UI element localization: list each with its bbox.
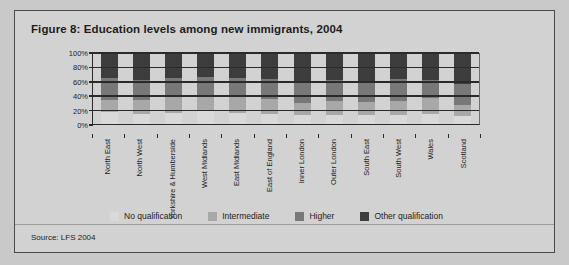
x-axis-tick-mark — [480, 134, 481, 138]
stacked-bar — [229, 53, 246, 124]
stacked-bar — [326, 53, 343, 124]
bar-segment — [326, 101, 343, 115]
bar-segment — [197, 77, 214, 95]
x-axis-label-text: East of England — [266, 139, 275, 192]
bars-layer — [93, 53, 479, 124]
bar-segment — [326, 115, 343, 124]
x-axis-label: East Midlands — [229, 134, 246, 186]
bar-segment — [197, 95, 214, 111]
x-axis-label: Wales — [423, 134, 440, 160]
x-axis-tick-mark — [383, 134, 384, 138]
bar-segment — [358, 102, 375, 115]
legend-item[interactable]: No qualification — [110, 211, 182, 221]
x-axis-label-text: South West — [395, 139, 404, 178]
x-axis-tick-mark — [221, 134, 222, 138]
legend-item[interactable]: Intermediate — [208, 211, 269, 221]
stacked-bar — [101, 53, 118, 124]
y-axis-tick-label: 80% — [73, 63, 88, 72]
x-axis-label: Scotland — [455, 134, 472, 168]
stacked-bar — [358, 53, 375, 124]
x-axis-tick-mark — [318, 134, 319, 138]
bar-segment — [326, 80, 343, 101]
bar-segment — [101, 53, 118, 78]
y-axis: 0%20%40%60%80%100% — [60, 53, 88, 125]
legend-label: Other qualification — [374, 211, 443, 221]
bar-segment — [358, 115, 375, 124]
legend-item[interactable]: Other qualification — [360, 211, 443, 221]
bar-segment — [454, 53, 471, 84]
legend-label: Higher — [309, 211, 334, 221]
figure-title: Figure 8: Education levels among new imm… — [31, 23, 342, 35]
bar-segment — [422, 98, 439, 114]
x-axis-tick-mark — [448, 134, 449, 138]
source-divider — [15, 224, 554, 225]
x-axis-label-text: North East — [104, 139, 113, 174]
bar-segment — [133, 100, 150, 114]
bar-segment — [261, 99, 278, 114]
x-axis-label: Yorkshire & Humberside — [164, 134, 181, 220]
stacked-bar — [454, 53, 471, 124]
x-axis-label: South East — [358, 134, 375, 176]
bar-segment — [454, 84, 471, 105]
bar-segment — [294, 115, 311, 124]
bar-segment — [197, 53, 214, 77]
y-axis-tick-label: 0% — [77, 121, 88, 130]
x-axis-label-text: West Midlands — [201, 139, 210, 188]
bar-segment — [454, 116, 471, 124]
chart-legend: No qualificationIntermediateHigherOther … — [110, 211, 443, 221]
bar-segment — [294, 81, 311, 102]
gridline — [93, 67, 479, 69]
x-axis-tick-mark — [124, 134, 125, 138]
legend-swatch-icon — [295, 212, 304, 221]
bar-segment — [261, 114, 278, 124]
y-axis-tick-label: 60% — [73, 77, 88, 86]
source-note: Source: LFS 2004 — [31, 233, 95, 242]
gridline — [93, 52, 479, 54]
x-axis-tick-mark — [286, 134, 287, 138]
legend-swatch-icon — [110, 212, 119, 221]
gridline — [93, 81, 479, 83]
bar-segment — [165, 113, 182, 124]
x-axis-tick-mark — [254, 134, 255, 138]
x-axis-label-text: East Midlands — [233, 139, 242, 186]
x-axis-label-text: Inner London — [298, 139, 307, 183]
x-axis-label: West Midlands — [197, 134, 214, 188]
gridline — [93, 95, 479, 97]
x-axis-label-text: Yorkshire & Humberside — [169, 139, 178, 220]
x-axis-label-text: Outer London — [330, 139, 339, 185]
x-axis-tick-mark — [351, 134, 352, 138]
x-axis-label: South West — [391, 134, 408, 178]
x-axis-tick-mark — [415, 134, 416, 138]
legend-swatch-icon — [360, 212, 369, 221]
x-axis-label-text: North West — [136, 139, 145, 176]
x-axis-label-text: Scotland — [460, 139, 469, 168]
figure-container: Figure 8: Education levels among new imm… — [14, 10, 555, 253]
stacked-bar — [133, 53, 150, 124]
legend-swatch-icon — [208, 212, 217, 221]
y-axis-tick-mark — [89, 124, 93, 126]
y-axis-tick-label: 100% — [69, 49, 88, 58]
legend-item[interactable]: Higher — [295, 211, 334, 221]
x-axis-label: North West — [132, 134, 149, 176]
bar-segment — [229, 113, 246, 124]
legend-label: Intermediate — [222, 211, 269, 221]
y-axis-tick-label: 20% — [73, 106, 88, 115]
stacked-bar — [390, 53, 407, 124]
x-axis-labels: North EastNorth WestYorkshire & Humbersi… — [92, 134, 480, 206]
bar-segment — [165, 53, 182, 78]
stacked-bar — [294, 53, 311, 124]
x-axis-label: North East — [100, 134, 117, 174]
x-axis-label: Inner London — [294, 134, 311, 183]
x-axis-tick-mark — [157, 134, 158, 138]
gridline — [93, 110, 479, 112]
bar-segment — [229, 53, 246, 78]
x-axis-label-text: Wales — [427, 139, 436, 160]
x-axis-label: East of England — [261, 134, 278, 192]
legend-label: No qualification — [124, 211, 182, 221]
stacked-bar — [261, 53, 278, 124]
bar-segment — [133, 114, 150, 124]
bar-segment — [422, 114, 439, 124]
x-axis-label-text: South East — [363, 139, 372, 176]
stacked-bar — [165, 53, 182, 124]
bar-segment — [390, 115, 407, 124]
